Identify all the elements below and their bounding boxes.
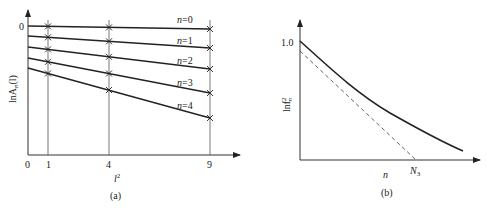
x-ticks: 0 1 4 9 <box>25 159 212 170</box>
y-axis-label: lnAn(l) <box>7 75 20 103</box>
label-n0: n=0 <box>177 14 193 25</box>
y-axis-label: lnf2n <box>280 97 294 112</box>
n3-marker-label: N3 <box>409 165 421 178</box>
label-n1: n=1 <box>177 35 193 46</box>
x-tick-0: 0 <box>25 159 30 170</box>
x-tick-4: 4 <box>106 159 111 170</box>
line-n0 <box>28 26 210 29</box>
x-tick-9: 9 <box>207 159 212 170</box>
label-n2: n=2 <box>177 55 193 66</box>
x-tick-1: 1 <box>46 159 51 170</box>
y-tick-0: 0 <box>19 21 24 32</box>
panel-b: 1.0 lnf2n n N3 (b) <box>280 20 480 199</box>
y-tick-1-0: 1.0 <box>281 37 294 48</box>
panel-a: n=0 n=1 n=2 n=3 n=4 0 0 1 4 9 l2 lnAn(l)… <box>7 10 240 202</box>
x-axis-label: n <box>383 169 388 180</box>
panel-a-caption: (a) <box>110 190 121 202</box>
x-axis-label: l2 <box>114 172 121 184</box>
curve-lnf2n <box>300 41 463 151</box>
figure: n=0 n=1 n=2 n=3 n=4 0 0 1 4 9 l2 lnAn(l)… <box>0 0 487 209</box>
label-n4: n=4 <box>177 100 193 111</box>
panel-b-caption: (b) <box>381 187 393 199</box>
diagram-canvas: n=0 n=1 n=2 n=3 n=4 0 0 1 4 9 l2 lnAn(l)… <box>0 0 487 209</box>
label-n3: n=3 <box>177 77 193 88</box>
tangent-dashed-line <box>300 51 415 159</box>
